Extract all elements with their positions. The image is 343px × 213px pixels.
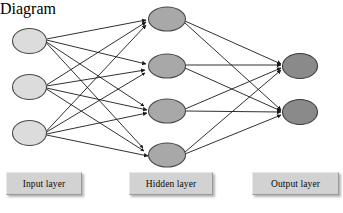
edge-i3-h2 [47,73,146,132]
edge-i1-h1 [47,20,147,39]
input-layer-nodes [13,29,47,146]
edge-h1-o1 [185,21,281,64]
edge-i3-h3 [47,113,148,134]
edge-i3-h4 [47,135,149,156]
node-input-2[interactable] [13,75,47,100]
neural-network-diagram: Input layer Hidden layer Output layer [0,0,343,213]
edge-i3-h1 [47,25,147,131]
output-layer-label: Output layer [252,172,339,195]
output-layer-nodes [283,54,318,125]
input-layer-label: Input layer [6,172,82,195]
hidden-layer-label-text: Hidden layer [146,179,197,189]
edge-h1-o2 [185,23,281,110]
edge-i2-h1 [47,22,147,85]
input-layer-label-text: Input layer [23,179,66,189]
edge-h4-o2 [185,115,281,154]
node-output-1[interactable] [283,54,318,79]
node-output-2[interactable] [283,100,318,125]
node-input-1[interactable] [13,29,47,54]
node-hidden-2[interactable] [149,54,186,78]
node-hidden-4[interactable] [149,143,186,167]
hidden-layer-label: Hidden layer [129,172,213,195]
node-hidden-1[interactable] [149,7,186,31]
node-input-3[interactable] [13,121,47,146]
node-hidden-3[interactable] [149,99,186,123]
hidden-layer-nodes [149,7,186,167]
output-layer-label-text: Output layer [271,179,320,189]
edges-input-to-hidden [47,20,149,156]
edges-hidden-to-output [185,21,281,154]
